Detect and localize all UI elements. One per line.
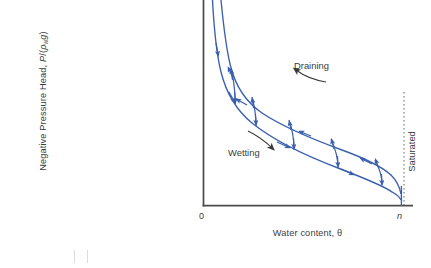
x-axis-label: Water content, θ: [200, 228, 415, 238]
wetting-leader-arrow: [248, 131, 272, 148]
draining-leader-arrow: [296, 70, 326, 82]
hysteresis-figure: Negative Pressure Head, P/(ρwg) Water co…: [0, 0, 431, 268]
x-tick-label-n: n: [397, 211, 402, 221]
page-margin-marks: [74, 250, 100, 264]
draining-label: Draining: [294, 60, 329, 71]
margin-mark-1: [74, 250, 75, 263]
margin-mark-2: [87, 250, 88, 263]
scanning-curve-5: [375, 160, 382, 185]
scanning-arrow-4: [338, 156, 339, 165]
y-axis-label-slash: /(: [38, 50, 48, 56]
y-axis-label-rho: ρ: [38, 44, 48, 49]
wetting-saturation-bend: [392, 192, 401, 200]
scanning-curves: [231, 68, 382, 185]
scanning-arrow-2: [256, 114, 257, 123]
wetting-arrow-4: [341, 169, 352, 174]
scanning-arrow-5: [382, 174, 383, 183]
draining-arrow-1: [238, 100, 247, 105]
y-axis-label-g: g: [38, 34, 48, 39]
y-axis-label-symbol: P: [38, 56, 48, 62]
wetting-label: Wetting: [228, 147, 260, 158]
wetting-main-curve: [213, 0, 393, 192]
scanning-arrow-1: [235, 92, 236, 101]
saturated-label: Saturated: [406, 107, 417, 197]
draining-saturation-bend: [391, 175, 401, 194]
y-axis-label-close: ): [38, 31, 48, 34]
y-axis-label-prefix: Negative Pressure Head,: [38, 62, 48, 171]
scanning-arrow-3: [294, 138, 295, 147]
y-axis-label-rho-subscript: w: [42, 40, 49, 45]
y-axis-label: Negative Pressure Head, P/(ρwg): [38, 1, 48, 201]
x-tick-label-zero: 0: [199, 211, 204, 221]
